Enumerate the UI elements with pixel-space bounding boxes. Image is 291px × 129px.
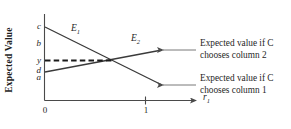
annotation-column-1: Expected value if C chooses column 1 (200, 73, 274, 96)
y-axis-title: Expected Value (4, 24, 14, 96)
y-tick-label-c: c (27, 21, 41, 31)
annotation-column-1-line-1: Expected value if C (200, 73, 274, 85)
y-tick-label-a: a (27, 72, 41, 82)
x-tick-label-0: 0 (38, 105, 52, 115)
curve-e1 (45, 27, 162, 85)
x-tick-label-1: 1 (139, 105, 153, 115)
curve-label-e1-subscript: 1 (77, 28, 80, 35)
curve-label-e2: E2 (131, 33, 140, 45)
expected-value-chart: Expected Value c b y d a 0 1 r1 E1 E2 Ex… (0, 0, 291, 129)
x-axis-variable-subscript: 1 (207, 97, 210, 104)
y-tick-label-y: y (27, 55, 41, 65)
y-tick-label-b: b (27, 38, 41, 48)
annotation-column-1-line-2: chooses column 1 (200, 85, 274, 97)
curve-label-e1: E1 (71, 23, 80, 35)
annotation-column-2-line-1: Expected value if C (200, 38, 274, 50)
curve-label-e2-subscript: 2 (137, 38, 140, 45)
annotation-column-2: Expected value if C chooses column 2 (200, 38, 274, 61)
annotation-column-2-line-2: chooses column 2 (200, 50, 274, 62)
